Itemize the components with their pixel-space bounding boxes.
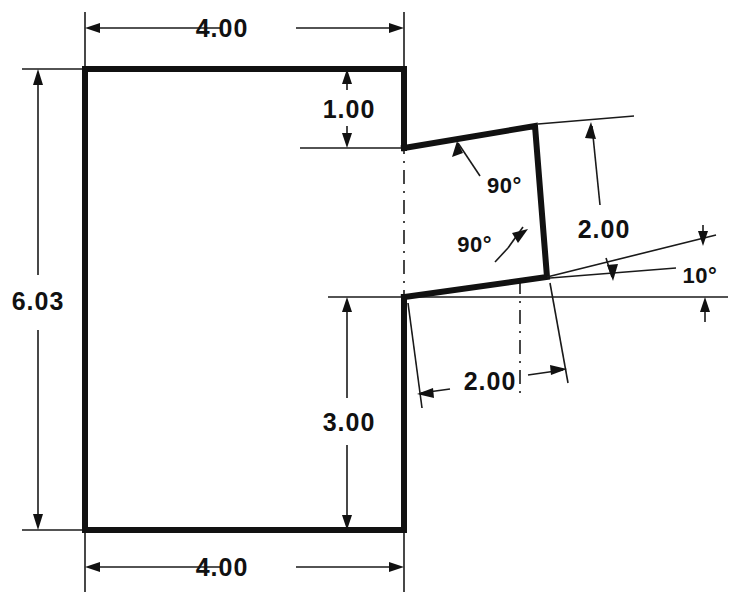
dimension-upper-offset: 1.00 <box>323 69 376 148</box>
ext-line-tab-top <box>538 116 634 124</box>
arrowhead-angle-lower <box>512 229 528 243</box>
ext-line-tab-depth-left <box>408 303 422 408</box>
arrowhead-bottom-right <box>389 562 404 572</box>
arrowhead-height-top <box>33 69 43 85</box>
arrowhead-upper-offset-bottom <box>342 133 352 148</box>
outline-lower-right-bottom-left <box>85 69 404 530</box>
dimension-label-upper-offset: 1.00 <box>323 95 376 123</box>
arrowhead-tab-length-top <box>585 122 596 139</box>
technical-drawing-canvas: 4.00 4.00 6.03 1.00 <box>0 0 743 604</box>
arrowhead-top-right <box>389 23 404 33</box>
dimension-label-top-width: 4.00 <box>196 14 249 42</box>
part-outline <box>85 69 547 530</box>
dimension-label-tab-length: 2.00 <box>578 215 631 243</box>
dimension-overall-height: 6.03 <box>12 69 65 530</box>
dimension-top-width: 4.00 <box>85 14 404 42</box>
arrowhead-bottom-left <box>85 562 100 572</box>
angle-upper-corner: 90° <box>452 141 522 198</box>
dimension-bottom-width: 4.00 <box>85 553 404 581</box>
dimension-lower-offset: 3.00 <box>323 297 376 530</box>
angle-lower-corner: 90° <box>457 227 528 262</box>
leader-line-angle-lower-lower-seg <box>495 248 508 262</box>
dimension-label-lower-offset: 3.00 <box>323 408 376 436</box>
arrowhead-top-left <box>85 23 100 33</box>
angle-label-lower-corner: 90° <box>457 232 492 257</box>
angle-label-upper-corner: 90° <box>487 173 522 198</box>
angle-incline: 10° <box>547 225 717 322</box>
drawing-svg: 4.00 4.00 6.03 1.00 <box>0 0 743 604</box>
arrowhead-height-bottom <box>33 514 43 530</box>
angle-label-incline: 10° <box>683 263 718 288</box>
dimension-label-overall-height: 6.03 <box>12 287 65 315</box>
dimension-label-tab-depth: 2.00 <box>464 367 517 395</box>
arrowhead-incline-lower <box>700 297 710 312</box>
leader-line-angle-upper <box>458 143 480 176</box>
arrowhead-lower-offset-top <box>342 297 352 312</box>
dimension-label-bottom-width: 4.00 <box>196 553 249 581</box>
outline-angled-tab <box>404 126 547 297</box>
dimension-tab-length: 2.00 <box>538 116 676 281</box>
dimension-tab-depth: 2.00 <box>408 283 568 408</box>
